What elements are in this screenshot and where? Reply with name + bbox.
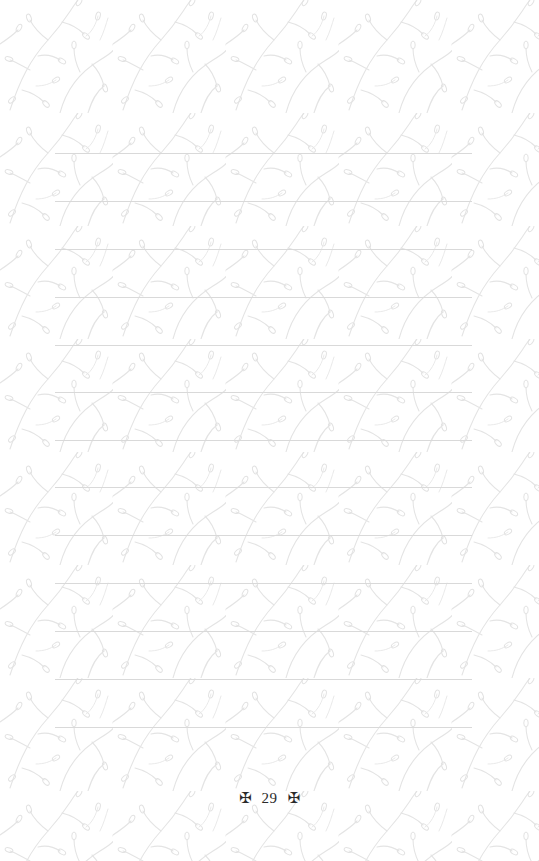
cross-ornament-icon: ✠ (239, 791, 252, 806)
page-number: 29 (262, 791, 278, 806)
ruled-line (55, 153, 472, 154)
ruled-line (55, 392, 472, 393)
ruled-line (55, 679, 472, 680)
ruled-line (55, 583, 472, 584)
ruled-line (55, 345, 472, 346)
ruled-line (55, 201, 472, 202)
cross-ornament-icon: ✠ (288, 791, 301, 806)
ruled-line (55, 631, 472, 632)
ruled-line (55, 535, 472, 536)
page-footer: ✠ 29 ✠ (0, 786, 539, 810)
ruled-line (55, 440, 472, 441)
ruled-lines (55, 0, 472, 861)
ruled-line (55, 249, 472, 250)
notebook-page: ✠ 29 ✠ (0, 0, 539, 861)
ruled-line (55, 297, 472, 298)
ruled-line (55, 487, 472, 488)
ruled-line (55, 727, 472, 728)
